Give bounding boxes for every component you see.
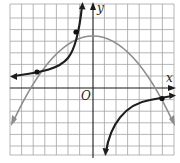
intersection-point (34, 69, 39, 74)
origin-label: O (81, 89, 91, 103)
x-axis-arrow-icon (168, 85, 176, 91)
intersection-point (73, 29, 78, 34)
coordinate-graph: x y O (0, 0, 180, 163)
intersection-points (34, 29, 164, 101)
y-axis-label: y (96, 1, 104, 15)
right-branch-right-arrow-icon (169, 93, 176, 100)
left-branch-left-arrow-icon (10, 73, 17, 80)
x-axis-label: x (166, 71, 173, 85)
intersection-point (159, 96, 164, 101)
y-axis-arrow-icon (90, 2, 96, 10)
